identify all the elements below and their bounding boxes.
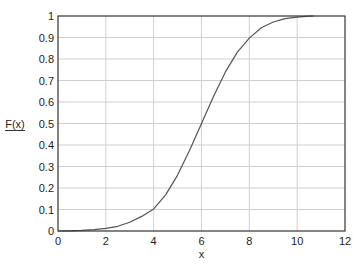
x-tick-label: 8 [246, 235, 252, 247]
x-tick-label: 12 [339, 235, 351, 247]
x-tick-label: 6 [198, 235, 204, 247]
y-tick-label: 0.9 [39, 32, 54, 44]
y-tick-label: 0.8 [39, 53, 54, 65]
x-tick-label: 0 [55, 235, 61, 247]
x-tick-label: 10 [291, 235, 303, 247]
x-tick-label: 4 [151, 235, 157, 247]
y-tick-label: 0 [48, 225, 54, 237]
y-axis-label: F(x) [5, 118, 25, 130]
y-axis-ticks: 00.10.20.30.40.50.60.70.80.91 [39, 10, 54, 237]
x-axis-label: x [199, 248, 205, 260]
y-tick-label: 0.6 [39, 96, 54, 108]
x-axis-ticks: 024681012 [55, 235, 351, 247]
y-tick-label: 0.4 [39, 139, 54, 151]
y-tick-label: 0.5 [39, 118, 54, 130]
y-tick-label: 0.3 [39, 161, 54, 173]
y-tick-label: 0.7 [39, 75, 54, 87]
y-tick-label: 1 [48, 10, 54, 22]
x-tick-label: 2 [103, 235, 109, 247]
cdf-chart: 00.10.20.30.40.50.60.70.80.91 024681012 … [0, 0, 360, 265]
y-tick-label: 0.1 [39, 204, 54, 216]
y-tick-label: 0.2 [39, 182, 54, 194]
